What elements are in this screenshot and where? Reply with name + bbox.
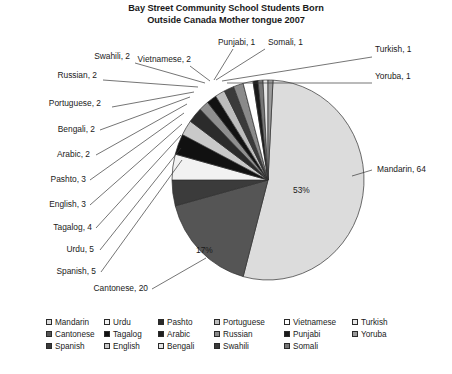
legend-item-punjabi[interactable]: Punjabi bbox=[284, 330, 352, 339]
legend-swatch bbox=[104, 331, 110, 337]
legend-item-swahili[interactable]: Swahili bbox=[214, 342, 284, 351]
legend-label: Urdu bbox=[113, 318, 131, 327]
legend-swatch bbox=[352, 331, 358, 337]
legend-item-english[interactable]: English bbox=[104, 342, 158, 351]
legend-label: Somali bbox=[293, 342, 318, 351]
legend-item-mandarin[interactable]: Mandarin bbox=[46, 318, 104, 327]
legend-swatch bbox=[158, 331, 164, 337]
chart-page: Bay Street Community School Students Bor… bbox=[0, 0, 452, 374]
legend-swatch bbox=[214, 319, 220, 325]
callout-mandarin: Mandarin, 64 bbox=[377, 164, 426, 174]
callout-russian: Russian, 2 bbox=[12, 70, 97, 80]
legend-swatch bbox=[158, 343, 164, 349]
legend-swatch bbox=[104, 343, 110, 349]
legend-item-arabic[interactable]: Arabic bbox=[158, 330, 214, 339]
legend-label: Vietnamese bbox=[293, 318, 336, 327]
callout-arabic: Arabic, 2 bbox=[10, 149, 90, 159]
legend-swatch bbox=[214, 343, 220, 349]
callout-yoruba: Yoruba, 1 bbox=[375, 71, 411, 81]
legend-swatch bbox=[284, 319, 290, 325]
callout-turkish: Turkish, 1 bbox=[375, 44, 411, 54]
legend-label: Russian bbox=[223, 330, 253, 339]
legend-label: Punjabi bbox=[293, 330, 320, 339]
callout-urdu: Urdu, 5 bbox=[16, 244, 94, 254]
slice-percent-cantonese: 17% bbox=[196, 245, 213, 255]
legend-swatch bbox=[284, 343, 290, 349]
legend-item-russian[interactable]: Russian bbox=[214, 330, 284, 339]
callout-english: English, 3 bbox=[6, 199, 86, 209]
legend-item-pashto[interactable]: Pashto bbox=[158, 318, 214, 327]
callout-cantonese: Cantonese, 20 bbox=[50, 283, 148, 293]
legend-label: Tagalog bbox=[113, 330, 142, 339]
callout-tagalog: Tagalog, 4 bbox=[6, 222, 92, 232]
legend-swatch bbox=[46, 343, 52, 349]
legend-label: Pashto bbox=[167, 318, 193, 327]
legend-swatch bbox=[46, 319, 52, 325]
legend-swatch bbox=[214, 331, 220, 337]
legend-item-cantonese[interactable]: Cantonese bbox=[46, 330, 104, 339]
legend-label: Bengali bbox=[167, 342, 194, 351]
chart-legend: MandarinUrduPashtoPortugueseVietnameseTu… bbox=[46, 316, 416, 354]
legend-swatch bbox=[284, 331, 290, 337]
legend-swatch bbox=[158, 319, 164, 325]
legend-label: Cantonese bbox=[55, 330, 95, 339]
legend-item-turkish[interactable]: Turkish bbox=[352, 318, 404, 327]
callout-portuguese: Portuguese, 2 bbox=[6, 98, 101, 108]
callout-punjabi: Punjabi, 1 bbox=[218, 37, 255, 47]
legend-item-somali[interactable]: Somali bbox=[284, 342, 352, 351]
legend-label: Portuguese bbox=[223, 318, 265, 327]
legend-item-bengali[interactable]: Bengali bbox=[158, 342, 214, 351]
legend-swatch bbox=[104, 319, 110, 325]
legend-label: Spanish bbox=[55, 342, 85, 351]
legend-swatch bbox=[46, 331, 52, 337]
callout-pashto: Pashto, 3 bbox=[6, 174, 86, 184]
legend-label: Mandarin bbox=[55, 318, 89, 327]
legend-item-spanish[interactable]: Spanish bbox=[46, 342, 104, 351]
callout-bengali: Bengali, 2 bbox=[10, 124, 95, 134]
legend-swatch bbox=[352, 319, 358, 325]
callout-somali: Somali, 1 bbox=[268, 37, 303, 47]
legend-grid: MandarinUrduPashtoPortugueseVietnameseTu… bbox=[46, 316, 416, 352]
legend-label: Yoruba bbox=[361, 330, 387, 339]
callout-spanish: Spanish, 5 bbox=[6, 266, 96, 276]
legend-item-tagalog[interactable]: Tagalog bbox=[104, 330, 158, 339]
legend-label: Arabic bbox=[167, 330, 190, 339]
legend-item-yoruba[interactable]: Yoruba bbox=[352, 330, 404, 339]
legend-item-portuguese[interactable]: Portuguese bbox=[214, 318, 284, 327]
legend-label: English bbox=[113, 342, 140, 351]
legend-item-vietnamese[interactable]: Vietnamese bbox=[284, 318, 352, 327]
legend-label: Swahili bbox=[223, 342, 249, 351]
legend-label: Turkish bbox=[361, 318, 388, 327]
legend-item-urdu[interactable]: Urdu bbox=[104, 318, 158, 327]
slice-percent-mandarin: 53% bbox=[293, 185, 310, 195]
callout-swahili: Swahili, 2 bbox=[45, 51, 130, 61]
